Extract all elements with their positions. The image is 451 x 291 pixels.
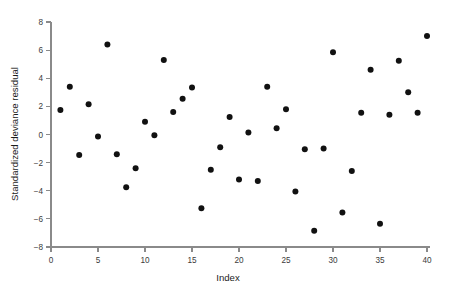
data-point — [95, 134, 101, 140]
x-tick-label: 15 — [187, 256, 197, 265]
axes-group — [51, 22, 430, 247]
x-tick-label: 0 — [49, 256, 54, 265]
y-tick-label: 8 — [38, 18, 43, 27]
data-point — [415, 110, 421, 116]
data-point — [217, 144, 223, 150]
x-tick-label: 40 — [422, 256, 432, 265]
data-point — [358, 110, 364, 116]
data-point — [330, 49, 336, 55]
scatter-plot-figure: −8−6−4−202468 0510152025303540 Index Sta… — [0, 0, 451, 291]
data-point — [311, 228, 317, 234]
x-tick-label: 25 — [281, 256, 291, 265]
y-tick-label: 0 — [38, 131, 43, 140]
data-point — [170, 109, 176, 115]
data-point — [104, 42, 110, 48]
y-tick-label: −4 — [34, 187, 44, 196]
data-point — [76, 152, 82, 158]
data-point — [302, 146, 308, 152]
data-point — [255, 178, 261, 184]
x-axis-title: Index — [216, 272, 240, 283]
data-point — [396, 58, 402, 64]
data-point — [339, 210, 345, 216]
data-point — [405, 89, 411, 95]
data-point — [377, 221, 383, 227]
data-point — [236, 177, 242, 183]
data-point — [151, 132, 157, 138]
data-point — [245, 129, 251, 135]
data-point — [142, 119, 148, 125]
data-points-group — [57, 33, 430, 234]
data-point — [208, 167, 214, 173]
data-point — [264, 84, 270, 90]
x-tick-label: 10 — [140, 256, 150, 265]
data-point — [161, 57, 167, 63]
data-point — [180, 96, 186, 102]
y-tick-label: 4 — [38, 74, 43, 83]
y-tick-label: 2 — [38, 102, 43, 111]
data-point — [424, 33, 430, 39]
data-point — [349, 168, 355, 174]
y-axis-ticks: −8−6−4−202468 — [34, 18, 51, 252]
y-axis-title: Standardized deviance residual — [9, 67, 20, 201]
data-point — [227, 114, 233, 120]
y-tick-label: −8 — [34, 243, 44, 252]
y-tick-label: −6 — [34, 215, 44, 224]
data-point — [189, 84, 195, 90]
x-tick-label: 20 — [234, 256, 244, 265]
data-point — [123, 184, 129, 190]
data-point — [283, 106, 289, 112]
x-axis-ticks: 0510152025303540 — [49, 247, 432, 265]
y-tick-label: 6 — [38, 46, 43, 55]
data-point — [321, 146, 327, 152]
y-tick-label: −2 — [34, 159, 44, 168]
data-point — [274, 125, 280, 131]
data-point — [67, 84, 73, 90]
x-tick-label: 35 — [375, 256, 385, 265]
x-tick-label: 5 — [96, 256, 101, 265]
data-point — [57, 107, 63, 113]
data-point — [133, 165, 139, 171]
x-tick-label: 30 — [328, 256, 338, 265]
data-point — [368, 67, 374, 73]
data-point — [86, 101, 92, 107]
data-point — [386, 112, 392, 118]
data-point — [292, 188, 298, 194]
data-point — [198, 205, 204, 211]
data-point — [114, 151, 120, 157]
plot-canvas: −8−6−4−202468 0510152025303540 Index Sta… — [0, 0, 451, 291]
